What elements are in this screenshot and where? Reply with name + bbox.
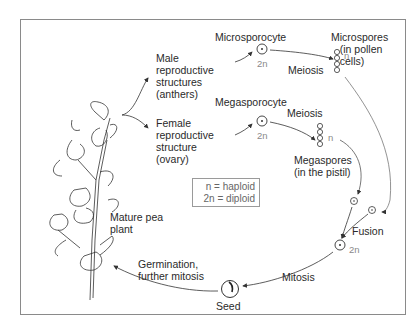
- legend-diploid: 2n = diploid: [197, 193, 255, 205]
- zygote-cell-icon: [335, 240, 345, 250]
- label-seed: Seed: [216, 300, 241, 312]
- ploidy-megaspores: n: [328, 132, 333, 143]
- label-microsporocyte: Microsporocyte: [215, 31, 286, 43]
- egg-cell-icon: [351, 198, 358, 205]
- ploidy-microsporocyte: 2n: [257, 58, 268, 69]
- legend-haploid: n = haploid: [197, 181, 255, 193]
- label-megaspores: Megaspores (in the pistil): [294, 154, 352, 178]
- ploidy-microspores: n: [344, 50, 349, 61]
- label-fusion: Fusion: [352, 225, 384, 237]
- label-microspores: Microspores (in pollen cells): [331, 31, 388, 67]
- label-germination: Germination, further mitosis: [138, 258, 204, 282]
- pea-plant-icon: [50, 102, 119, 300]
- seed-icon: [222, 281, 239, 298]
- label-meiosis-top: Meiosis: [288, 64, 324, 76]
- ploidy-zygote: 2n: [349, 244, 360, 255]
- megaspores-tetrad-icon: [317, 123, 322, 146]
- microsporocyte-cell-icon: [257, 44, 267, 54]
- ploidy-legend: n = haploid 2n = diploid: [192, 178, 260, 207]
- label-meiosis-bottom: Meiosis: [287, 107, 323, 119]
- label-mature-plant: Mature pea plant: [110, 211, 163, 235]
- ploidy-megasporocyte: 2n: [257, 130, 268, 141]
- sperm-cell-icon: [369, 207, 376, 214]
- label-male-structures: Male reproductive structures (anthers): [156, 52, 214, 100]
- megasporocyte-cell-icon: [257, 116, 267, 126]
- label-megasporocyte: Megasporocyte: [215, 96, 287, 108]
- label-female-structure: Female reproductive structure (ovary): [156, 117, 214, 165]
- label-mitosis: Mitosis: [282, 271, 315, 283]
